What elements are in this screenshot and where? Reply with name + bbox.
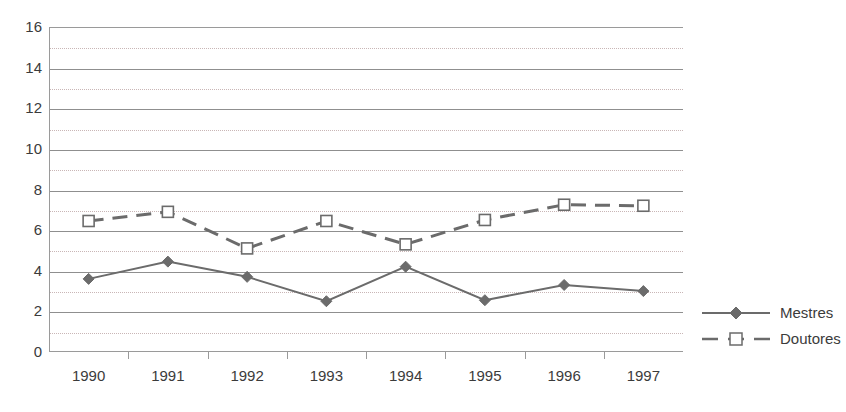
data-point-marker xyxy=(83,273,94,284)
x-tick-mark xyxy=(445,352,446,359)
data-point-marker xyxy=(321,215,332,226)
y-tick-label: 14 xyxy=(8,60,42,75)
x-axis: 19901991199219931994199519961997 xyxy=(49,352,683,412)
data-point-marker xyxy=(479,295,490,306)
y-tick-label: 4 xyxy=(8,263,42,278)
data-point-marker xyxy=(162,206,173,217)
y-tick-label: 6 xyxy=(8,222,42,237)
x-tick-mark xyxy=(128,352,129,359)
data-point-marker xyxy=(559,279,570,290)
data-point-marker xyxy=(638,200,649,211)
x-tick-mark xyxy=(525,352,526,359)
y-tick-label: 2 xyxy=(8,303,42,318)
legend-item-mestres: Mestres xyxy=(700,300,840,326)
x-tick-label: 1991 xyxy=(128,368,207,384)
y-tick-label: 16 xyxy=(8,19,42,34)
y-axis: 0246810121416 xyxy=(0,0,42,412)
legend-key-doutores xyxy=(700,329,772,349)
x-tick-label: 1990 xyxy=(49,368,128,384)
data-point-marker xyxy=(162,256,173,267)
series-layer xyxy=(49,27,683,352)
legend-label-mestres: Mestres xyxy=(780,305,833,321)
x-tick-label: 1994 xyxy=(366,368,445,384)
data-point-marker xyxy=(242,243,253,254)
legend-key-mestres xyxy=(700,303,772,323)
y-tick-label: 8 xyxy=(8,182,42,197)
x-tick-mark xyxy=(208,352,209,359)
series-doutores xyxy=(83,199,649,254)
y-tick-label: 10 xyxy=(8,141,42,156)
x-tick-label: 1995 xyxy=(445,368,524,384)
chart-legend: Mestres Doutores xyxy=(700,300,840,352)
x-tick-label: 1993 xyxy=(287,368,366,384)
x-tick-label: 1996 xyxy=(525,368,604,384)
data-point-marker xyxy=(83,215,94,226)
x-tick-mark xyxy=(287,352,288,359)
data-point-marker xyxy=(242,271,253,282)
data-point-marker xyxy=(559,199,570,210)
data-point-marker xyxy=(321,296,332,307)
x-tick-label: 1997 xyxy=(604,368,683,384)
data-point-marker xyxy=(479,214,490,225)
series-mestres xyxy=(83,256,649,307)
data-point-marker xyxy=(400,239,411,250)
series-line xyxy=(89,262,644,302)
y-tick-label: 12 xyxy=(8,100,42,115)
x-tick-mark xyxy=(366,352,367,359)
y-tick-label: 0 xyxy=(8,344,42,359)
line-chart: 0246810121416 19901991199219931994199519… xyxy=(0,0,846,412)
data-point-marker xyxy=(400,261,411,272)
data-point-marker xyxy=(638,286,649,297)
x-tick-mark xyxy=(604,352,605,359)
legend-item-doutores: Doutores xyxy=(700,326,840,352)
x-tick-label: 1992 xyxy=(208,368,287,384)
legend-label-doutores: Doutores xyxy=(780,331,841,347)
